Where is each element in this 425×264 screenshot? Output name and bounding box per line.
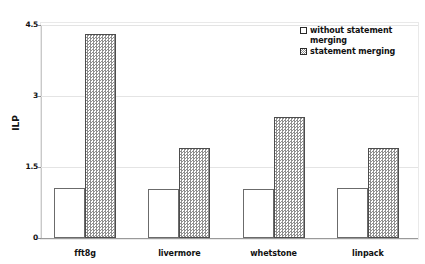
x-axis-baseline [41,238,418,239]
x-tick-label: livermore [128,249,230,258]
y-tick-label: 3 [0,91,38,100]
y-tick-label: 0 [0,233,38,242]
bar [179,148,210,238]
chart-legend: without statement merging statement merg… [300,26,418,58]
chart-figure: ILP 01.534.5 fft8glivermorewhetstonelinp… [0,0,425,264]
legend-item-statement-merging: statement merging [300,47,418,57]
bar [85,34,116,238]
y-tick-label: 1.5 [0,162,38,171]
legend-label: statement merging [310,47,395,57]
bar [54,188,85,238]
x-tick-label: linpack [317,249,419,258]
x-tick-label: whetstone [223,249,325,258]
bar [337,188,368,238]
hatched-square-icon [300,48,307,55]
plain-square-icon [300,27,307,34]
bar [148,189,179,238]
bar [368,148,399,238]
bar [274,117,305,238]
bar [243,189,274,238]
y-tick-label: 4.5 [0,20,38,29]
x-tick-label: fft8g [34,249,136,258]
legend-item-without-statement-merging: without statement merging [300,26,418,46]
y-axis-title: ILP [11,103,21,143]
legend-label: without statement merging [310,26,418,46]
